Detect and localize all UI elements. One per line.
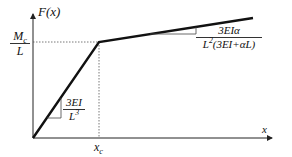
slope2-num: 3EIα xyxy=(196,25,262,36)
slope2-den-rest: (3EI+αL) xyxy=(213,38,256,50)
yield-force-den: L xyxy=(10,45,30,57)
y-axis-label: F(x) xyxy=(38,5,60,18)
force-displacement-diagram xyxy=(0,0,292,157)
x-axis-label: x xyxy=(262,124,267,135)
slope1-den-sup: 3 xyxy=(75,108,79,117)
slope1-num: 3EI xyxy=(63,97,85,108)
slope2-label: 3EIα L2(3EI+αL) xyxy=(196,25,262,50)
slope1-label: 3EI L3 xyxy=(63,97,85,122)
yield-force-num: M xyxy=(13,29,23,43)
yield-displacement-label: xc xyxy=(94,141,103,153)
yield-force-label: Mc L xyxy=(10,30,30,57)
yield-force-sub: c xyxy=(23,36,27,45)
xc-sub: c xyxy=(99,147,103,156)
